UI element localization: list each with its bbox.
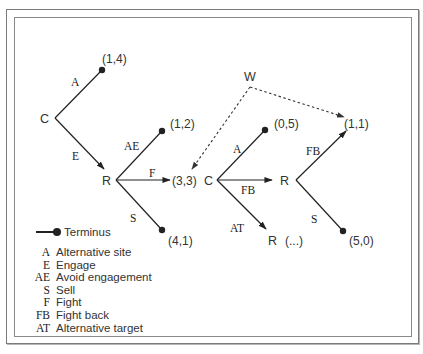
edge-label-c1-a: A [71,76,80,88]
legend-terminus: Terminus [36,224,152,240]
legend-desc: Sell [56,284,75,297]
payoff-c2-a: (0,5) [274,117,299,131]
edge-c1-e [55,118,104,169]
payoff-r1-f: (3,3) [172,174,197,188]
legend-item: FB Fight back [28,309,152,322]
legend-abbr: AE [28,271,50,284]
legend-desc: Fight back [56,309,109,322]
node-w: W [244,70,256,84]
legend-terminus-label: Terminus [64,226,111,238]
edge-label-r1-s: S [130,212,136,224]
dotted-link-w-to-33 [192,87,250,169]
edge-label-r1-ae: AE [124,140,139,152]
legend-abbr: F [28,296,50,309]
payoff-r1-ae: (1,2) [170,117,195,131]
dotted-link-w-to-11 [250,87,344,117]
edge-r1-s [116,180,162,230]
terminus-dot [159,227,165,233]
payoff-r2-fb: (1,1) [344,117,369,131]
legend-item: S Sell [28,284,152,297]
legend-abbr: FB [28,309,50,322]
node-r2: R [280,174,289,188]
legend-item: A Alternative site [28,246,152,259]
edge-label-r2-fb: FB [306,145,320,157]
edge-r2-fb [296,131,346,180]
node-r1: R [102,174,111,188]
edge-label-c2-at: AT [230,222,244,234]
edge-label-r1-f: F [149,167,155,179]
terminus-dot [99,67,105,73]
legend-abbr: S [28,284,50,297]
edge-label-c2-fb: FB [241,184,255,196]
terminus-dot [340,228,346,234]
legend-desc: Alternative site [56,246,131,259]
edge-label-r2-s: S [311,213,317,225]
legend-desc: Avoid engagement [56,271,152,284]
legend: Terminus A Alternative site E Engage AE … [28,224,152,334]
terminus-dot [262,127,268,133]
legend-desc: Engage [56,259,96,272]
payoff-c1-a: (1,4) [102,52,127,66]
terminus-dot [159,128,165,134]
legend-abbr: E [28,259,50,272]
terminus-line-icon [36,231,54,233]
payoff-r3-continuation: (...) [285,234,303,248]
legend-abbr: A [28,246,50,259]
payoff-r2-s: (5,0) [349,234,374,248]
legend-item: AE Avoid engagement [28,271,152,284]
payoff-r1-s: (4,1) [168,234,193,248]
legend-abbr: AT [28,322,50,335]
legend-item: F Fight [28,296,152,309]
node-c2: C [204,174,213,188]
node-r3: R [268,234,277,248]
legend-desc: Alternative target [56,322,143,335]
terminus-dot-icon [53,228,61,236]
legend-item: E Engage [28,259,152,272]
edge-c2-a [217,130,265,180]
edge-label-c2-a: A [233,143,242,155]
node-c1: C [40,112,49,126]
edge-label-c1-e: E [72,150,79,162]
legend-item: AT Alternative target [28,322,152,335]
edge-r2-s [296,180,343,231]
legend-desc: Fight [56,296,82,309]
